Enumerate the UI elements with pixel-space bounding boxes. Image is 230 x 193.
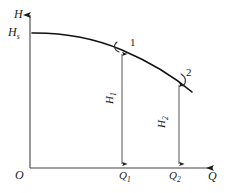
q2-symbol: Q — [169, 169, 177, 181]
origin-label: O — [15, 169, 24, 181]
flow-axis-label: Q — [208, 170, 217, 182]
q1-subscript: 1 — [127, 175, 131, 184]
point-1-label: 1 — [130, 37, 136, 48]
shutoff-head-label: Hs — [8, 26, 20, 41]
head-2-symbol: H — [155, 120, 167, 128]
hq-characteristic-curve — [32, 33, 192, 92]
shutoff-head-subscript: s — [17, 32, 20, 41]
head-2-subscript: 2 — [161, 116, 170, 120]
shutoff-head-symbol: H — [8, 25, 17, 39]
hq-curve-figure: H Hs O Q1 Q2 Q 1 2 H1 H2 — [0, 0, 230, 193]
q1-tick-label: Q1 — [119, 170, 131, 184]
q2-tick-label: Q2 — [169, 170, 181, 184]
head-2-label: H2 — [156, 116, 170, 128]
head-1-label: H1 — [104, 92, 118, 104]
q1-symbol: Q — [119, 169, 127, 181]
point-2-label: 2 — [186, 67, 192, 78]
head-axis-label: H — [14, 8, 23, 20]
q2-subscript: 2 — [177, 175, 181, 184]
head-1-symbol: H — [103, 96, 115, 104]
head-1-subscript: 1 — [109, 92, 118, 96]
